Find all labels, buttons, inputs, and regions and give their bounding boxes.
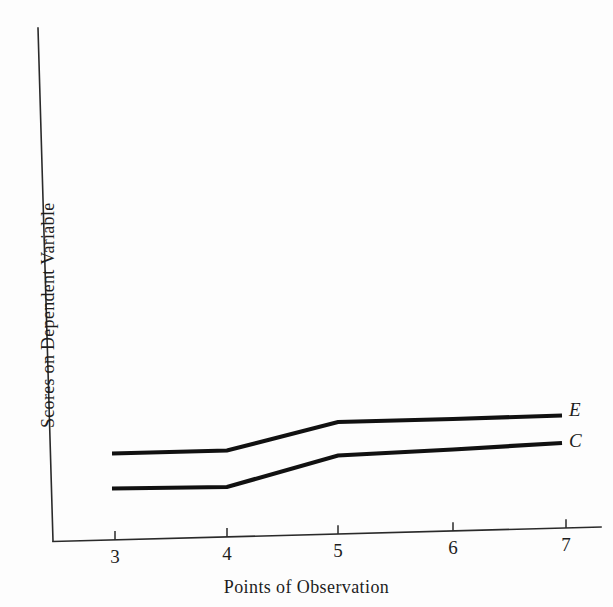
series-label-e: E — [569, 400, 581, 419]
x-tick-label-4: 4 — [207, 544, 247, 563]
x-axis-title: Points of Observation — [0, 577, 613, 598]
x-tick-label-6: 6 — [433, 538, 473, 557]
y-axis-title: Scores on Dependent Variable — [38, 203, 59, 429]
plot-area — [0, 0, 613, 607]
x-tick-label-7: 7 — [546, 535, 586, 554]
line-chart-figure: 3 4 5 6 7 Points of Observation Scores o… — [0, 0, 613, 607]
x-tick-label-5: 5 — [318, 541, 358, 560]
series-label-c: C — [569, 431, 582, 450]
x-tick-label-3: 3 — [95, 547, 135, 566]
x-axis-line — [53, 527, 601, 542]
